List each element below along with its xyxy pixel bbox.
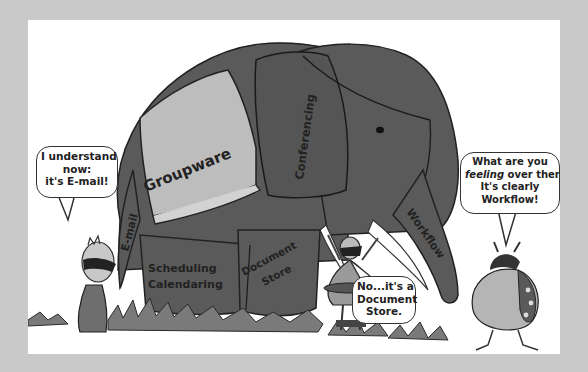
elephant-eye [376, 127, 384, 133]
label-scheduling: Scheduling [148, 262, 217, 275]
speech-bubble-email: I understand now: it's E-mail! [36, 146, 118, 198]
figure-right [472, 242, 538, 350]
speech-bubble-workflow: What are you feeling over there? It's cl… [460, 152, 560, 214]
illustration-frame: Groupware Conferencing E-mail Workflow S… [28, 20, 560, 354]
bubble-tail-right [498, 210, 516, 245]
speech-bubble-document-store: No...it's a Document Store. [352, 276, 416, 324]
label-calendaring: Calendaring [148, 278, 223, 291]
bubble-tail-left [58, 195, 74, 220]
